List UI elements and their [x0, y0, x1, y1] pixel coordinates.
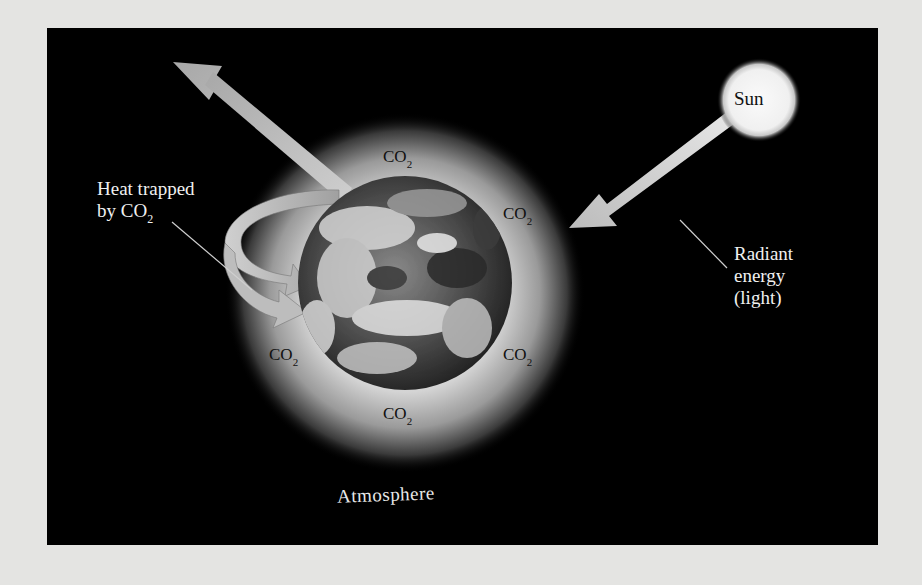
radiant-energy-leader-line — [680, 220, 727, 268]
diagram-panel: Sun Heat trapped by CO2 Radiant energy (… — [47, 28, 878, 545]
radiant-energy-line2: energy — [734, 265, 793, 287]
heat-trapped-line1: Heat trapped — [97, 178, 195, 200]
earth-globe — [298, 176, 512, 390]
heat-trapped-line2: by CO2 — [97, 200, 195, 230]
co2-label-lower-right: CO2 — [503, 346, 532, 371]
co2-label-top: CO2 — [383, 148, 412, 173]
radiant-energy-label: Radiant energy (light) — [734, 243, 793, 309]
radiant-energy-line1: Radiant — [734, 243, 793, 265]
co2-label-lower-left: CO2 — [269, 346, 298, 371]
co2-label-upper-right: CO2 — [503, 205, 532, 230]
heat-trapped-label: Heat trapped by CO2 — [97, 178, 195, 230]
incoming-radiation-arrow — [569, 108, 742, 228]
sun-label: Sun — [734, 88, 764, 110]
radiant-energy-line3: (light) — [734, 287, 793, 309]
co2-label-bottom: CO2 — [383, 405, 412, 430]
atmosphere-label: Atmosphere — [337, 482, 436, 507]
